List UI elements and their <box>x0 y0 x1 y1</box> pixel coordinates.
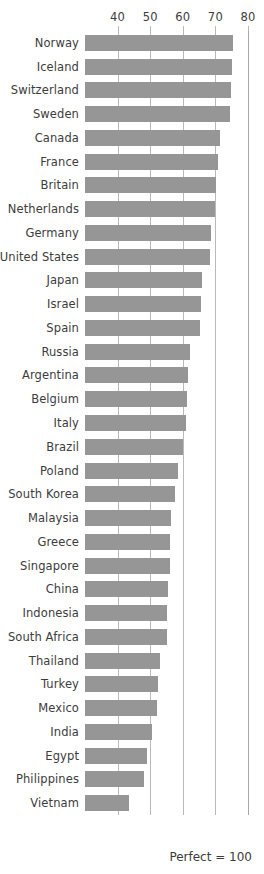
bar <box>85 605 167 621</box>
bar-chart: 4050607080 NorwayIcelandSwitzerlandSwede… <box>0 0 264 874</box>
bar-row: Belgium <box>0 387 264 411</box>
bar-row: Britain <box>0 174 264 198</box>
bar <box>85 534 170 550</box>
bar <box>85 724 152 740</box>
category-label: Germany <box>25 226 79 239</box>
category-label: Iceland <box>37 60 79 73</box>
bar-row: Egypt <box>0 744 264 768</box>
bar <box>85 700 157 716</box>
bar <box>85 272 202 288</box>
bar-rows: NorwayIcelandSwitzerlandSwedenCanadaFran… <box>0 31 264 815</box>
bar <box>85 748 147 764</box>
bar-row: Netherlands <box>0 197 264 221</box>
bar-row: Canada <box>0 126 264 150</box>
category-label: Poland <box>40 464 79 477</box>
bar-row: South Korea <box>0 482 264 506</box>
bar-row: Germany <box>0 221 264 245</box>
bar-row: Singapore <box>0 554 264 578</box>
bar-row: India <box>0 720 264 744</box>
bar-row: South Africa <box>0 625 264 649</box>
bar-row: Thailand <box>0 649 264 673</box>
bar <box>85 558 170 574</box>
category-label: Netherlands <box>8 203 79 216</box>
bar-row: Sweden <box>0 102 264 126</box>
bar-row: Vietnam <box>0 791 264 815</box>
x-axis-tick-label: 60 <box>175 10 190 24</box>
category-label: Argentina <box>22 369 79 382</box>
bar-row: Mexico <box>0 696 264 720</box>
category-label: France <box>40 155 79 168</box>
bar <box>85 320 200 336</box>
category-label: China <box>46 583 79 596</box>
bar <box>85 771 144 787</box>
category-label: Switzerland <box>11 84 79 97</box>
bar <box>85 130 220 146</box>
bar-row: Israel <box>0 292 264 316</box>
category-label: Egypt <box>45 749 79 762</box>
bar <box>85 201 215 217</box>
category-label: South Korea <box>8 488 79 501</box>
bar <box>85 676 158 692</box>
category-label: Canada <box>35 131 79 144</box>
bar <box>85 344 190 360</box>
bar-row: Switzerland <box>0 79 264 103</box>
bar-row: France <box>0 150 264 174</box>
bar-row: Norway <box>0 31 264 55</box>
category-label: Malaysia <box>28 512 79 525</box>
category-label: Italy <box>54 416 79 429</box>
bar-row: Brazil <box>0 435 264 459</box>
bar <box>85 249 210 265</box>
bar <box>85 439 183 455</box>
bar-row: Italy <box>0 411 264 435</box>
category-label: Turkey <box>41 678 79 691</box>
footer-note: Perfect = 100 <box>169 850 252 864</box>
category-label: Greece <box>37 535 79 548</box>
bar <box>85 391 187 407</box>
x-axis-tick-label: 70 <box>208 10 223 24</box>
bar-row: United States <box>0 245 264 269</box>
category-label: Philippines <box>16 773 79 786</box>
category-label: Indonesia <box>22 607 79 620</box>
category-label: Russia <box>41 345 79 358</box>
category-label: Japan <box>46 274 79 287</box>
bar <box>85 463 178 479</box>
bar-row: Iceland <box>0 55 264 79</box>
x-axis-tick-label: 80 <box>240 10 255 24</box>
x-axis-tick-labels: 4050607080 <box>0 10 264 30</box>
category-label: Thailand <box>29 654 79 667</box>
category-label: South Africa <box>8 630 79 643</box>
category-label: Brazil <box>46 440 79 453</box>
bar-row: Poland <box>0 459 264 483</box>
x-axis-tick-label: 40 <box>110 10 125 24</box>
bar <box>85 59 232 75</box>
bar <box>85 629 167 645</box>
category-label: Mexico <box>38 702 79 715</box>
bar <box>85 486 175 502</box>
bar-row: Spain <box>0 316 264 340</box>
bar <box>85 177 216 193</box>
category-label: Singapore <box>20 559 79 572</box>
bar <box>85 367 188 383</box>
bar <box>85 795 129 811</box>
bar-row: Turkey <box>0 672 264 696</box>
category-label: United States <box>0 250 79 263</box>
bar-row: Argentina <box>0 364 264 388</box>
bar-row: Russia <box>0 340 264 364</box>
bar <box>85 35 233 51</box>
bar <box>85 653 160 669</box>
bar-row: Philippines <box>0 767 264 791</box>
category-label: Vietnam <box>30 797 79 810</box>
category-label: Israel <box>47 298 79 311</box>
category-label: Britain <box>40 179 79 192</box>
x-axis-tick-label: 50 <box>143 10 158 24</box>
bar-row: China <box>0 577 264 601</box>
bar <box>85 154 218 170</box>
category-label: Belgium <box>31 393 79 406</box>
bar <box>85 296 201 312</box>
bar-row: Indonesia <box>0 601 264 625</box>
bar <box>85 106 230 122</box>
bar-row: Greece <box>0 530 264 554</box>
bar <box>85 415 186 431</box>
category-label: India <box>50 725 79 738</box>
category-label: Norway <box>35 36 79 49</box>
